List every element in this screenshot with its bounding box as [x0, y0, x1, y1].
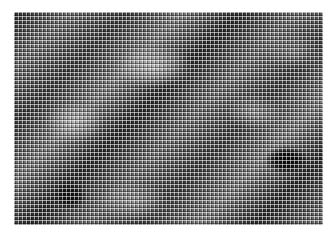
halftone-image — [14, 12, 323, 225]
dot-grid-overlay — [14, 12, 323, 225]
